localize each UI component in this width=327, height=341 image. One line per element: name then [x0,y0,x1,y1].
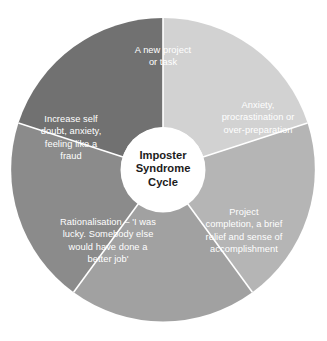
cycle-hub: Imposter Syndrome Cycle [121,127,205,211]
imposter-syndrome-cycle-diagram: A new project or task Anxiety, procrasti… [0,0,327,341]
cycle-hub-title: Imposter Syndrome Cycle [136,149,191,190]
